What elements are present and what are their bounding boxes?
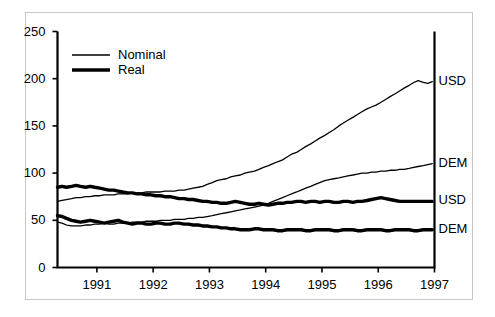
- series-line-real-dem: [58, 216, 433, 231]
- x-tick-label: 1992: [130, 277, 176, 292]
- line-chart-canvas: [0, 0, 495, 317]
- x-tick-label: 1993: [186, 277, 232, 292]
- series-end-label-real-dem: DEM: [439, 221, 468, 236]
- plot-axes: [53, 32, 435, 273]
- series-end-label-nominal-usd: USD: [439, 73, 466, 88]
- x-tick-label: 1996: [355, 277, 401, 292]
- legend-swatches: [72, 55, 110, 70]
- series-end-label-real-usd: USD: [439, 192, 466, 207]
- y-tick-label: 250: [6, 24, 46, 39]
- chart-figure: 050100150200250 199119921993199419951996…: [0, 0, 495, 317]
- legend-label-real: Real: [118, 62, 145, 77]
- x-tick-label: 1991: [74, 277, 120, 292]
- data-series-group: [58, 81, 433, 231]
- series-line-nominal-usd: [58, 81, 433, 202]
- axis-lines: [58, 32, 435, 268]
- x-tick-label: 1997: [412, 277, 458, 292]
- y-tick-label: 100: [6, 165, 46, 180]
- series-end-label-nominal-dem: DEM: [439, 155, 468, 170]
- legend-label-nominal: Nominal: [118, 47, 166, 62]
- y-tick-label: 0: [6, 260, 46, 275]
- x-tick-label: 1995: [299, 277, 345, 292]
- y-tick-label: 200: [6, 71, 46, 86]
- x-tick-label: 1994: [243, 277, 289, 292]
- y-tick-label: 150: [6, 118, 46, 133]
- y-tick-label: 50: [6, 212, 46, 227]
